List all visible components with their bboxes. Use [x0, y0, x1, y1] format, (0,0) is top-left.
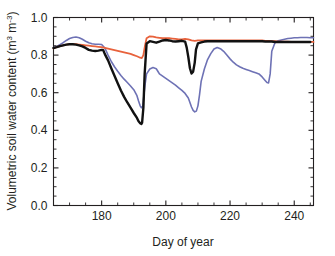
- y-tick-label: 1.0: [31, 11, 48, 25]
- y-tick-label: 0.8: [31, 48, 48, 62]
- series-line-blue: [54, 37, 314, 112]
- y-axis-title: Volumetric soil water content (m3 m-3): [5, 12, 19, 211]
- series-line-orange: [54, 36, 314, 58]
- x-axis-title: Day of year: [152, 235, 213, 249]
- y-tick-label: 0.2: [31, 161, 48, 175]
- x-tick-label: 200: [156, 209, 176, 223]
- chart-figure: 180200220240 0.00.20.40.60.81.0 Day of y…: [0, 0, 335, 256]
- y-tick-label: 0.4: [31, 123, 48, 137]
- x-tick-label: 180: [92, 209, 112, 223]
- x-axis-tick-labels: 180200220240: [92, 209, 305, 223]
- y-tick-label: 0.6: [31, 86, 48, 100]
- data-series-group: [54, 36, 314, 124]
- x-tick-label: 220: [220, 209, 240, 223]
- line-chart-canvas: 180200220240 0.00.20.40.60.81.0 Day of y…: [0, 0, 335, 256]
- x-tick-label: 240: [284, 209, 304, 223]
- y-tick-label: 0.0: [31, 199, 48, 213]
- y-axis-tick-labels: 0.00.20.40.60.81.0: [31, 11, 48, 213]
